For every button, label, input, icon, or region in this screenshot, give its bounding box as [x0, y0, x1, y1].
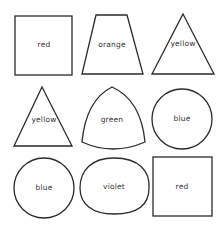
shape-label: red	[176, 182, 189, 191]
shape-square-red: red	[153, 157, 212, 216]
shape-trapezoid-orange: orange	[82, 15, 143, 74]
shape-circle-blue: blue	[152, 89, 212, 149]
shape-square-red: red	[15, 16, 72, 75]
shape-label: green	[101, 115, 124, 124]
shape-label: violet	[103, 182, 125, 191]
shape-label: yellow	[170, 39, 195, 48]
shape-triangle-yellow: yellow	[14, 87, 72, 146]
shape-oval-violet: violet	[80, 158, 149, 214]
shape-reuleaux-green: green	[82, 87, 145, 149]
shape-label: red	[38, 40, 51, 49]
shape-label: orange	[98, 40, 126, 49]
shape-triangle-yellow: yellow	[152, 14, 214, 74]
shape-label: blue	[173, 114, 190, 123]
shape-circle-blue: blue	[14, 158, 74, 218]
shape-label: blue	[35, 183, 52, 192]
shape-label: yellow	[31, 115, 56, 124]
shapes-diagram: red orange yellow yellow green blue blue…	[0, 0, 224, 226]
